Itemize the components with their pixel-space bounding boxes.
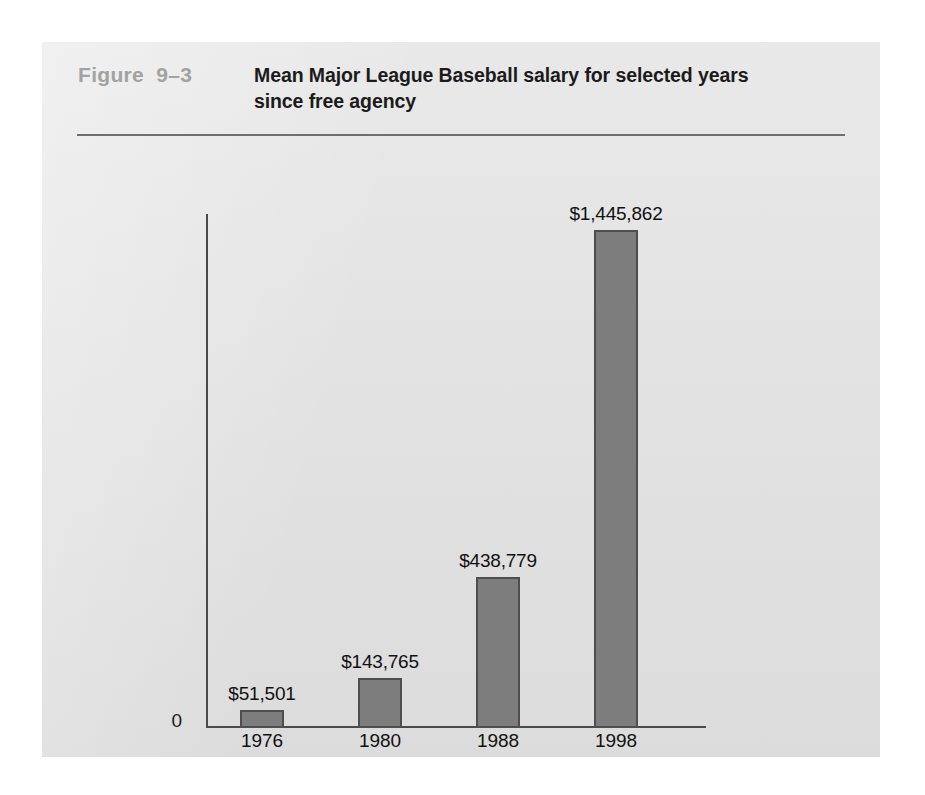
figure-header: Figure 9–3 Mean Major League Baseball sa…	[42, 42, 880, 138]
title-divider	[77, 134, 845, 136]
bar-value-label-1998: $1,445,862	[569, 203, 662, 225]
y-axis-line	[206, 214, 208, 728]
figure-card: Figure 9–3 Mean Major League Baseball sa…	[42, 42, 880, 757]
bar-value-label-1976: $51,501	[228, 683, 295, 705]
bar-1998	[594, 230, 638, 728]
figure-number: Figure 9–3	[78, 63, 192, 87]
x-axis-label-1980: 1980	[326, 730, 434, 752]
y-axis-origin-label: 0	[171, 710, 182, 732]
bar-1976	[240, 710, 284, 728]
bar-1988	[476, 577, 520, 728]
bar-value-label-1988: $438,779	[459, 550, 537, 572]
x-axis-label-1998: 1998	[562, 730, 670, 752]
chart-plot-area: 0 $51,501$143,765$438,779$1,445,862 1976…	[42, 138, 880, 757]
bar-value-label-1980: $143,765	[341, 651, 419, 673]
x-axis-label-1988: 1988	[444, 730, 552, 752]
figure-title: Mean Major League Baseball salary for se…	[254, 62, 754, 114]
bar-1980	[358, 678, 402, 728]
x-axis-label-1976: 1976	[208, 730, 316, 752]
